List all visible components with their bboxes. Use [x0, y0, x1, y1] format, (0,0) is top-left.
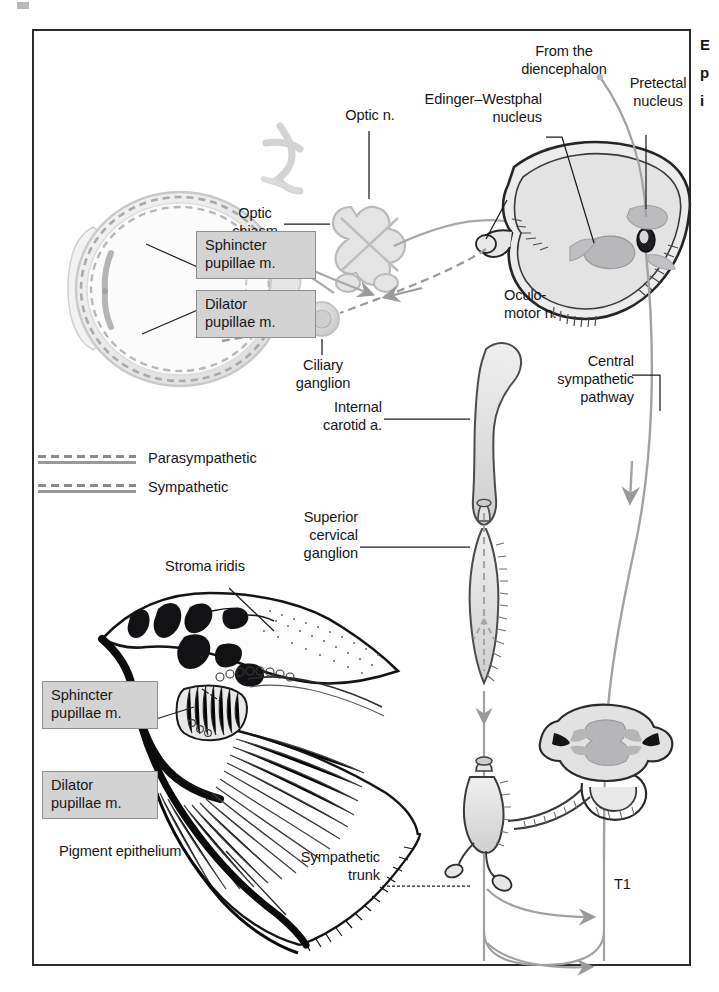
legend-key-sympathetic [38, 484, 136, 497]
label-pigment-epithelium: Pigment epithelium [59, 843, 239, 861]
legend-label-sympathetic: Sympathetic [148, 479, 228, 495]
spinal-cord-segment [443, 705, 672, 894]
legend-dashed-line [38, 455, 136, 458]
label-superior-cervical-ganglion: Superior cervical ganglion [256, 509, 358, 562]
label-ciliary-ganglion: Ciliary ganglion [284, 357, 362, 393]
boxed-label-sphincter-pupillae-eye: Sphincter pupillae m. [196, 231, 316, 279]
boxed-label-dilator-pupillae-eye: Dilator pupillae m. [196, 290, 316, 338]
figure-frame: From the diencephalon Pretectal nucleus … [32, 29, 691, 966]
legend-key-parasympathetic [38, 455, 136, 468]
figure-page: E p i [0, 0, 719, 992]
anatomical-illustration [34, 31, 693, 968]
scan-artifact [17, 2, 29, 9]
label-oculomotor-n: Oculo- motor n. [504, 287, 594, 323]
legend-solid-line [38, 461, 136, 464]
superior-cervical-ganglion-graphic [470, 499, 508, 731]
legend-label-parasympathetic: Parasympathetic [148, 450, 257, 466]
legend-dashed-line [38, 484, 136, 487]
label-t1: T1 [614, 876, 646, 894]
label-central-sympathetic-pathway: Central sympathetic pathway [550, 353, 634, 406]
label-internal-carotid-a: Internal carotid a. [282, 399, 382, 435]
legend-solid-line [38, 490, 136, 493]
trunk-tube-lower [484, 853, 604, 967]
label-from-the-diencephalon: From the diencephalon [504, 43, 624, 79]
label-sympathetic-trunk: Sympathetic trunk [274, 849, 380, 885]
boxed-label-sphincter-pupillae-iris: Sphincter pupillae m. [42, 681, 158, 729]
internal-carotid-artery [473, 343, 521, 525]
label-pretectal-nucleus: Pretectal nucleus [612, 75, 704, 111]
boxed-label-dilator-pupillae-iris: Dilator pupillae m. [42, 771, 158, 819]
label-stroma-iridis: Stroma iridis [134, 558, 276, 576]
label-optic-n: Optic n. [329, 107, 411, 125]
